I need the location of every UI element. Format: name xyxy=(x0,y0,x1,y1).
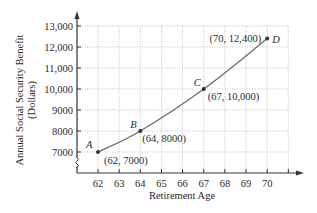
x-tick-label: 64 xyxy=(135,178,146,189)
point-letter-label: B xyxy=(130,119,137,130)
y-axis-title: Annual Social Security Benefit xyxy=(14,34,25,165)
point-letter-label: C xyxy=(194,77,202,88)
point-coordinate-label: (67, 10,000) xyxy=(208,91,260,103)
point-coordinate-label: (64, 8000) xyxy=(142,133,186,145)
point-letter-label: A xyxy=(85,139,93,150)
data-point-c xyxy=(202,87,206,91)
y-axis-title-units: (Dollars) xyxy=(26,81,38,119)
data-point-d xyxy=(265,37,269,41)
y-tick-label: 11,000 xyxy=(45,63,74,74)
x-tick-label: 68 xyxy=(220,178,231,189)
y-tick-label: 12,000 xyxy=(44,42,73,53)
chart: 62636465666768697070008000900010,00011,0… xyxy=(0,0,317,213)
x-tick-label: 63 xyxy=(114,178,125,189)
point-coordinate-label: (62, 7000) xyxy=(104,155,148,167)
point-letter-label: D xyxy=(271,34,280,45)
y-tick-label: 8000 xyxy=(52,126,73,137)
y-tick-label: 9000 xyxy=(52,105,73,116)
axes xyxy=(74,11,304,176)
y-tick-label: 13,000 xyxy=(44,21,73,32)
x-tick-label: 65 xyxy=(156,178,167,189)
x-axis-title: Retirement Age xyxy=(149,190,216,201)
point-coordinate-label: (70, 12,400) xyxy=(210,33,262,45)
y-tick-label: 7000 xyxy=(52,147,73,158)
x-tick-label: 70 xyxy=(262,178,273,189)
y-tick-label: 10,000 xyxy=(44,84,73,95)
x-tick-label: 67 xyxy=(199,178,210,189)
x-tick-label: 66 xyxy=(177,178,188,189)
x-tick-label: 62 xyxy=(93,178,104,189)
data-point-a xyxy=(96,150,100,154)
x-tick-label: 69 xyxy=(241,178,252,189)
